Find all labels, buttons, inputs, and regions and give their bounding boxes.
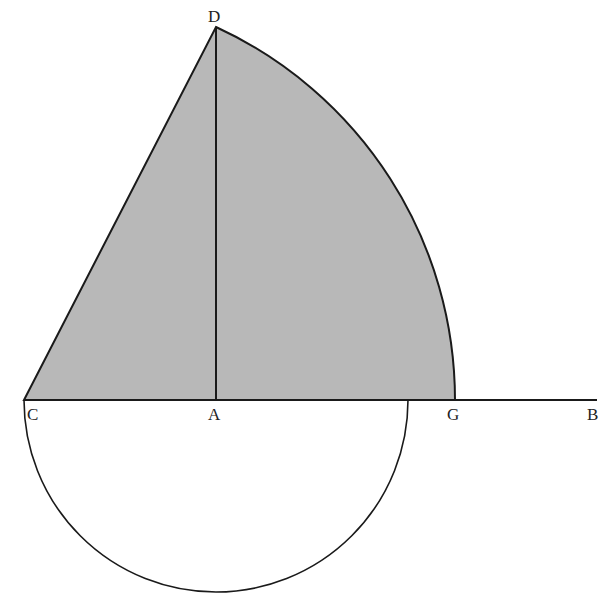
label-G: G bbox=[447, 405, 459, 424]
shaded-sector bbox=[24, 27, 455, 400]
label-D: D bbox=[208, 7, 220, 26]
semicircle bbox=[24, 400, 408, 592]
label-B: B bbox=[587, 405, 598, 424]
geometry-diagram: D C A G B bbox=[0, 0, 616, 612]
label-C: C bbox=[27, 405, 38, 424]
label-A: A bbox=[208, 405, 221, 424]
